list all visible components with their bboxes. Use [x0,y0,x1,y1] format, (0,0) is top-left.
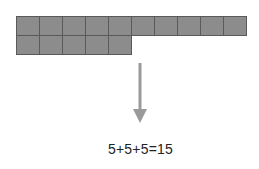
equation-label: 5+5+5=15 [0,141,259,157]
grid-row-1 [16,16,246,36]
grid-square [39,35,63,55]
grid-square [85,16,109,36]
grid-square [16,16,40,36]
grid-square [200,16,224,36]
grid-square [108,35,132,55]
grid-square [16,35,40,55]
grid-square [108,16,132,36]
grid-square [223,16,247,36]
grid-square [62,35,86,55]
down-arrow-icon [132,63,148,123]
grid-square [154,16,178,36]
grid-square [39,16,63,36]
grid-square [131,16,155,36]
grid-square [62,16,86,36]
grid-row-2 [16,35,131,55]
grid-square [85,35,109,55]
grid-square [177,16,201,36]
